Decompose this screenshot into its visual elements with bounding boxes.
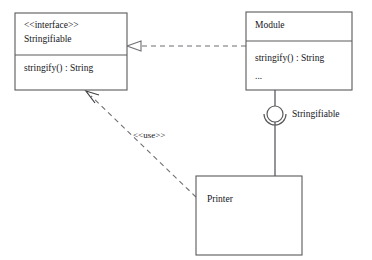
provided-interface-lollipop[interactable]: Stringifiable [264,90,340,176]
interface-stereotype-label: <<interface>> [24,20,79,30]
use-dependency-connector[interactable]: <<use>> [86,91,196,197]
uml-diagram-svg: <<interface>> Stringifiable stringify() … [0,0,372,260]
interface-class-box[interactable]: <<interface>> Stringifiable stringify() … [15,13,127,90]
printer-class-box[interactable]: Printer [196,176,302,255]
interface-name-label: Stringifiable [24,34,72,44]
realization-hollow-triangle-arrowhead [127,41,141,51]
use-dependency-dashed-line [91,96,196,197]
lollipop-interface-label: Stringifiable [292,109,340,119]
module-operation-label: stringify() : String [255,53,324,64]
provided-interface-ball-circle [267,106,283,122]
module-class-box[interactable]: Module stringify() : String ... [246,12,352,90]
use-dependency-stereotype-label: <<use>> [133,130,165,140]
uml-diagram-canvas: <<interface>> Stringifiable stringify() … [0,0,372,260]
printer-box-outline [196,176,302,255]
interface-operation-label: stringify() : String [24,63,93,74]
module-name-label: Module [255,20,285,30]
printer-name-label: Printer [207,194,234,204]
module-ellipsis-label: ... [255,71,262,81]
